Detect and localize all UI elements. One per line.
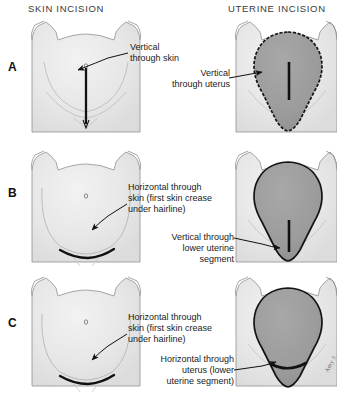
callout-a-skin-incision: Vertical through skin — [130, 42, 228, 64]
panel-label-a: A — [8, 60, 17, 74]
panel-b-skin-figure — [31, 151, 140, 266]
panel-a-uterus-figure — [235, 21, 337, 132]
callout-b-uterine-incision: Vertical through lower uterine segment — [126, 232, 234, 266]
panel-b-uterus-figure — [235, 151, 337, 262]
panel-c-uterus-figure — [235, 277, 337, 387]
abdomen-body — [32, 152, 140, 262]
column-header-uterine-incision: UTERINE INCISION — [228, 3, 326, 14]
callout-a-uterine-incision: Vertical through uterus — [120, 68, 230, 90]
panel-label-b: B — [8, 186, 17, 200]
callout-c-skin-incision: Horizontal through skin (first skin crea… — [128, 312, 234, 346]
callout-c-uterine-incision: Horizontal through uterus (lower uterine… — [124, 354, 234, 388]
column-header-skin-incision: SKIN INCISION — [28, 3, 104, 14]
callout-b-skin-incision: Horizontal through skin (first skin crea… — [128, 182, 234, 216]
panel-label-c: C — [8, 316, 17, 330]
